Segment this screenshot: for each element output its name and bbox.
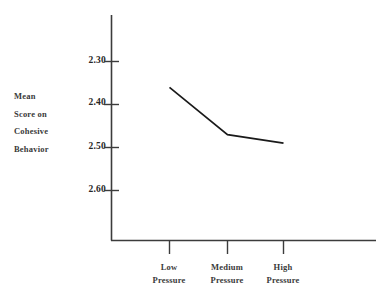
chart-canvas (0, 0, 389, 297)
data-series-line (170, 87, 284, 143)
chart-figure: Mean Score on Cohesive Behavior 2.30 2.4… (0, 0, 389, 297)
